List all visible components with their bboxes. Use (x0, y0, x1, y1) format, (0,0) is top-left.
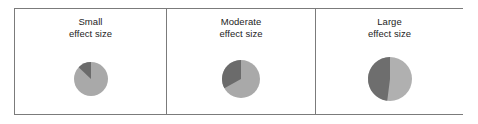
panel-caption-small: Small effect size (15, 16, 166, 39)
pie-chart-large (316, 43, 463, 114)
pie-small-svg (69, 57, 113, 101)
panel-moderate-effect-size: Moderate effect size (166, 9, 315, 114)
panel-large-effect-size: Large effect size (315, 9, 463, 114)
panel-caption-large: Large effect size (316, 16, 463, 39)
pie-chart-small (15, 43, 166, 114)
pie-chart-moderate (167, 43, 315, 114)
effect-size-figure: Small effect size Moderate effect size L… (0, 0, 478, 124)
panel-group: Small effect size Moderate effect size L… (14, 8, 463, 115)
pie-large-svg (363, 52, 417, 106)
pie-slice-effect (367, 57, 389, 101)
pie-moderate-svg (217, 55, 265, 103)
panel-small-effect-size: Small effect size (15, 9, 166, 114)
panel-caption-moderate: Moderate effect size (167, 16, 315, 39)
